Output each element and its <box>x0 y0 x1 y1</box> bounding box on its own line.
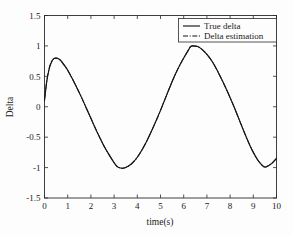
x-tick-label: 10 <box>272 201 282 211</box>
x-tick-label: 3 <box>112 201 117 211</box>
x-tick-label: 6 <box>181 201 186 211</box>
x-tick-label: 1 <box>65 201 70 211</box>
x-tick-label: 4 <box>135 201 140 211</box>
figure-container: 1.510.50-0.5-1-1.5 012345678910 time(s) … <box>0 0 293 235</box>
series-true-delta <box>45 46 277 168</box>
y-tick-label: 1.5 <box>29 11 41 21</box>
y-axis-tick-labels: 1.510.50-0.5-1-1.5 <box>26 11 41 204</box>
x-tick-label: 0 <box>42 201 47 211</box>
legend-label-delta-estimation: Delta estimation <box>204 31 264 41</box>
x-tick-label: 8 <box>228 201 233 211</box>
x-tick-label: 9 <box>251 201 256 211</box>
axes-frame <box>45 16 277 199</box>
y-axis-title: Delta <box>5 96 15 117</box>
y-tick-label: -1.5 <box>26 193 41 203</box>
axis-tick-marks <box>45 16 277 199</box>
x-tick-label: 7 <box>205 201 210 211</box>
x-tick-label: 5 <box>158 201 163 211</box>
chart-legend: True delta Delta estimation <box>179 19 277 43</box>
legend-label-true-delta: True delta <box>204 21 240 31</box>
y-tick-label: 1 <box>36 41 41 51</box>
y-tick-label: 0 <box>36 102 41 112</box>
delta-line-chart: 1.510.50-0.5-1-1.5 012345678910 time(s) … <box>0 0 293 235</box>
x-tick-label: 2 <box>89 201 94 211</box>
y-tick-label: 0.5 <box>29 72 41 82</box>
y-tick-label: -1 <box>33 163 41 173</box>
x-axis-title: time(s) <box>147 217 174 228</box>
series-delta-estimation <box>45 46 277 168</box>
x-axis-tick-labels: 012345678910 <box>42 201 281 211</box>
y-tick-label: -0.5 <box>26 132 41 142</box>
